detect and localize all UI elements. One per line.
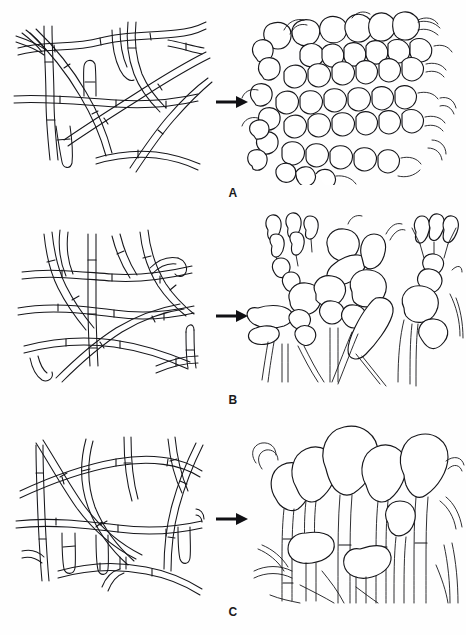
panel-b-label: B <box>0 393 466 407</box>
panel-a: A <box>0 0 466 210</box>
panel-b: B <box>0 210 466 415</box>
panel-b-hyphae-network <box>18 230 198 382</box>
panel-c-transformation-arrow <box>216 513 248 525</box>
panel-b-conidial-clusters <box>247 213 463 386</box>
panel-c-vesicle-stalks <box>253 426 464 603</box>
panel-a-arthrospore-chains <box>242 12 456 185</box>
panel-c-label: C <box>0 605 466 619</box>
panel-c-hyphae-network <box>16 437 204 595</box>
panel-b-artwork <box>0 210 466 390</box>
panel-a-transformation-arrow <box>216 96 248 108</box>
panel-b-transformation-arrow <box>216 310 248 322</box>
panel-a-label: A <box>0 186 466 200</box>
panel-c: C <box>0 415 466 635</box>
panel-a-artwork <box>0 0 466 185</box>
panel-c-artwork <box>0 415 466 605</box>
figure-root: A <box>0 0 466 635</box>
panel-a-hyphae-network <box>14 22 212 172</box>
